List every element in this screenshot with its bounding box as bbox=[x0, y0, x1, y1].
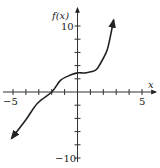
y-axis bbox=[75, 8, 81, 162]
x-tick-label-neg5: −5 bbox=[3, 96, 18, 107]
function-graph: f(x) x 10 −10 −5 5 bbox=[0, 0, 160, 168]
function-curve bbox=[12, 20, 114, 138]
y-tick-label-neg10: −10 bbox=[55, 153, 76, 164]
x-axis-label: x bbox=[148, 79, 154, 90]
x-tick-label-5: 5 bbox=[139, 96, 145, 107]
y-axis-label: f(x) bbox=[51, 10, 69, 21]
x-axis bbox=[3, 89, 156, 95]
y-tick-label-10: 10 bbox=[61, 21, 74, 32]
